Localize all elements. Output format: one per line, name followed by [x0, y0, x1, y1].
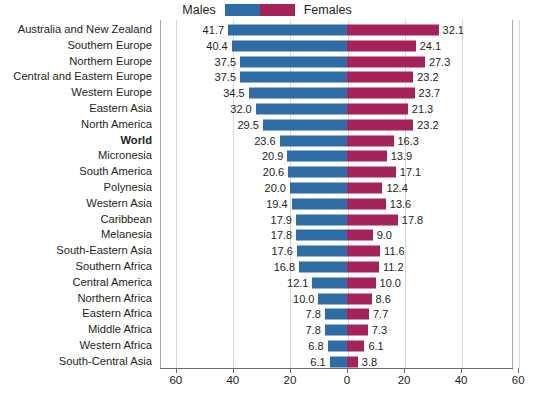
value-label-females: 23.2 [417, 72, 438, 83]
x-tick-label: 60 [512, 375, 525, 387]
value-label-females: 8.6 [376, 293, 391, 304]
category-label: Middle Africa [0, 325, 152, 336]
x-tick-label: 0 [344, 375, 350, 387]
x-axis: 6040200204060 [160, 368, 513, 393]
value-label-females: 23.2 [417, 119, 438, 130]
bar-males [249, 88, 347, 99]
category-label: South-Eastern Asia [0, 246, 152, 257]
bar-females [347, 56, 425, 67]
bar-males [290, 183, 347, 194]
value-label-males: 29.5 [237, 119, 258, 130]
bar-males [263, 119, 347, 130]
bar-males [228, 25, 347, 36]
chart-row: Northern Africa10.08.6 [0, 291, 534, 307]
category-label: Southern Europe [0, 40, 152, 51]
value-label-females: 9.0 [377, 230, 392, 241]
bar-males [256, 104, 347, 115]
value-label-males: 7.8 [305, 309, 320, 320]
value-label-males: 37.5 [215, 56, 236, 67]
chart-row: South-Eastern Asia17.611.6 [0, 243, 534, 259]
bar-males [292, 198, 347, 209]
bar-males [312, 277, 347, 288]
chart-row: Southern Africa16.811.2 [0, 259, 534, 275]
value-label-males: 12.1 [287, 277, 308, 288]
value-label-males: 17.9 [271, 214, 292, 225]
value-label-males: 41.7 [203, 25, 224, 36]
bar-females [347, 246, 380, 257]
x-tick-label: 40 [455, 375, 468, 387]
legend-item-females-label: Females [304, 4, 352, 17]
bar-females [347, 293, 372, 304]
value-label-females: 11.6 [384, 246, 405, 257]
bar-females [347, 356, 358, 367]
category-label: Northern Europe [0, 56, 152, 67]
value-label-females: 3.8 [362, 356, 377, 367]
chart-row: Eastern Africa7.87.7 [0, 306, 534, 322]
category-label: Central and Eastern Europe [0, 72, 152, 83]
value-label-females: 24.1 [420, 40, 441, 51]
bar-males [232, 40, 347, 51]
value-label-males: 23.6 [254, 135, 275, 146]
value-label-males: 7.8 [305, 325, 320, 336]
chart-row: Northern Europe37.527.3 [0, 54, 534, 70]
category-label: Northern Africa [0, 293, 152, 304]
value-label-females: 12.4 [386, 183, 407, 194]
category-label: Caribbean [0, 214, 152, 225]
chart-row: Caribbean17.917.8 [0, 212, 534, 228]
bar-females [347, 167, 396, 178]
category-label: Polynesia [0, 182, 152, 193]
x-tick-label: 20 [284, 375, 297, 387]
bar-females [347, 40, 416, 51]
bar-females [347, 104, 408, 115]
value-label-females: 13.6 [390, 198, 411, 209]
bar-males [288, 167, 347, 178]
bar-females [347, 309, 369, 320]
bar-males [325, 309, 347, 320]
bar-males [296, 230, 347, 241]
category-label: Central America [0, 277, 152, 288]
chart-row: Central and Eastern Europe37.523.2 [0, 69, 534, 85]
category-label: Micronesia [0, 151, 152, 162]
category-label: World [0, 135, 152, 146]
x-tick-label: 20 [398, 375, 411, 387]
bar-females [347, 198, 386, 209]
chart-row: Australia and New Zealand41.732.1 [0, 22, 534, 38]
chart-row: North America29.523.2 [0, 117, 534, 133]
category-label: Western Europe [0, 88, 152, 99]
value-label-females: 7.3 [372, 325, 387, 336]
chart-row: Central America12.110.0 [0, 275, 534, 291]
value-label-females: 16.3 [398, 135, 419, 146]
value-label-females: 32.1 [443, 25, 464, 36]
bar-males [299, 262, 347, 273]
chart-row: South-Central Asia6.13.8 [0, 354, 534, 370]
bar-females [347, 277, 376, 288]
category-label: South America [0, 167, 152, 178]
bar-males [297, 246, 347, 257]
chart-row: World23.616.3 [0, 133, 534, 149]
category-label: South-Central Asia [0, 356, 152, 367]
chart-row: Polynesia20.012.4 [0, 180, 534, 196]
bar-females [347, 119, 413, 130]
bar-males [280, 135, 347, 146]
chart-row: Southern Europe40.424.1 [0, 38, 534, 54]
value-label-males: 40.4 [206, 40, 227, 51]
bar-females [347, 135, 394, 146]
diverging-bar-chart: Males Females Australia and New Zealand4… [0, 0, 534, 393]
category-label: Australia and New Zealand [0, 24, 152, 35]
bar-males [330, 356, 347, 367]
chart-row: Western Asia19.413.6 [0, 196, 534, 212]
bar-females [347, 151, 387, 162]
bar-males [325, 325, 347, 336]
chart-legend: Males Females [0, 0, 534, 20]
value-label-females: 17.1 [400, 167, 421, 178]
value-label-males: 34.5 [223, 88, 244, 99]
category-label: North America [0, 119, 152, 130]
category-label: Melanesia [0, 230, 152, 241]
chart-row: Western Africa6.86.1 [0, 338, 534, 354]
category-label: Western Asia [0, 198, 152, 209]
value-label-females: 11.2 [383, 262, 404, 273]
value-label-females: 13.9 [391, 151, 412, 162]
value-label-males: 6.8 [308, 341, 323, 352]
legend-item-males-label: Males [182, 4, 215, 17]
chart-row: Middle Africa7.87.3 [0, 322, 534, 338]
